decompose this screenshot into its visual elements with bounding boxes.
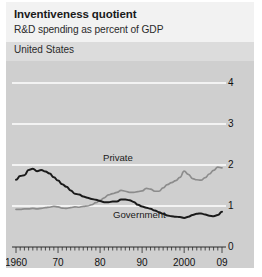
y-tick-label-0: 0 (228, 241, 234, 252)
plot-area: 4 3 2 1 0 1960 70 80 90 2000 09 Private … (6, 61, 254, 268)
series-label-government: Government (113, 209, 166, 220)
y-tick-label-4: 4 (228, 77, 234, 88)
chart-header: Inventiveness quotient R&D spending as p… (6, 2, 254, 42)
page-title: Inventiveness quotient (14, 8, 136, 20)
series-label-private: Private (103, 152, 133, 163)
chart-figure: Inventiveness quotient R&D spending as p… (0, 0, 262, 277)
x-tick-label-90: 90 (122, 257, 162, 268)
chart-subtitle: R&D spending as percent of GDP (14, 24, 163, 35)
region-label: United States (14, 44, 74, 55)
y-tick-label-3: 3 (228, 118, 234, 129)
y-tick-label-1: 1 (228, 200, 234, 211)
x-tick-label-09: 09 (202, 257, 242, 268)
x-tick-label-70: 70 (38, 257, 78, 268)
chart-card: Inventiveness quotient R&D spending as p… (6, 2, 254, 268)
x-tick-label-80: 80 (80, 257, 120, 268)
plot-inner (6, 61, 254, 268)
x-tick-label-1960: 1960 (6, 257, 36, 268)
x-axis-ticks (6, 61, 254, 268)
x-tick-label-2000: 2000 (164, 257, 204, 268)
y-tick-label-2: 2 (228, 159, 234, 170)
